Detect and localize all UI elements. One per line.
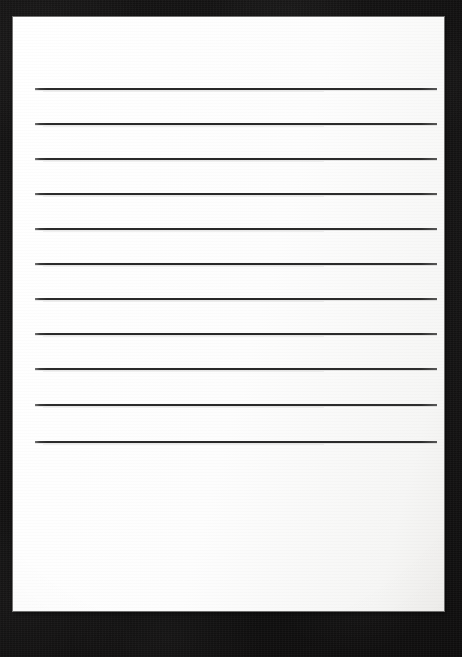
rule-line-1 (35, 88, 437, 90)
rule-line-8 (35, 333, 437, 335)
blank-writing-area (35, 458, 437, 611)
scan-canvas (0, 0, 462, 657)
rule-line-5 (35, 228, 437, 230)
rule-line-7 (35, 298, 437, 300)
rule-line-6 (35, 263, 437, 265)
rule-line-10 (35, 404, 437, 406)
rule-line-11 (35, 441, 437, 443)
rule-line-2 (35, 123, 437, 125)
paper-sheet (13, 17, 444, 611)
rule-line-3 (35, 158, 437, 160)
rule-line-4 (35, 193, 437, 195)
rule-line-9 (35, 368, 437, 370)
